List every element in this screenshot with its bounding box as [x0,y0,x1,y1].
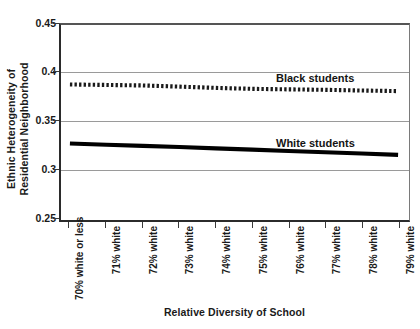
x-tick-label-9: 79% white [404,226,418,300]
y-tick-label-0.3: 0.3 [22,164,56,174]
x-tick-label-2: 72% white [147,226,161,300]
y-tick-label-0.35: 0.35 [22,115,56,125]
x-tick-label-5: 75% white [257,226,271,300]
y-tick-label-0.45: 0.45 [22,18,56,28]
series-label-white-students: White students [276,137,355,149]
x-tick-label-1: 71% white [110,226,124,300]
series-label-black-students: Black students [276,72,354,84]
x-tick-label-7: 77% white [330,226,344,300]
chart-figure: Ethnic Heterogeneity of Residential Neig… [0,0,420,329]
x-tick-label-0: 70% white or less [73,226,87,300]
series-layer [61,25,409,220]
x-axis-title: Relative Diversity of School [59,306,410,318]
y-tick-label-0.4: 0.4 [22,66,56,76]
x-tick-label-4: 74% white [220,226,234,300]
x-tick-label-8: 78% white [367,226,381,300]
x-tick-label-6: 76% white [294,226,308,300]
x-tick-label-3: 73% white [183,226,197,300]
plot-area: Black students White students [59,23,410,222]
y-tick-label-0.25: 0.25 [22,213,56,223]
series-line-black-students [70,84,398,91]
y-axis-tick-labels: 0.45 0.4 0.35 0.3 0.25 [16,0,56,329]
x-axis-tick-labels: 70% white or less71% white72% white73% w… [59,228,410,300]
